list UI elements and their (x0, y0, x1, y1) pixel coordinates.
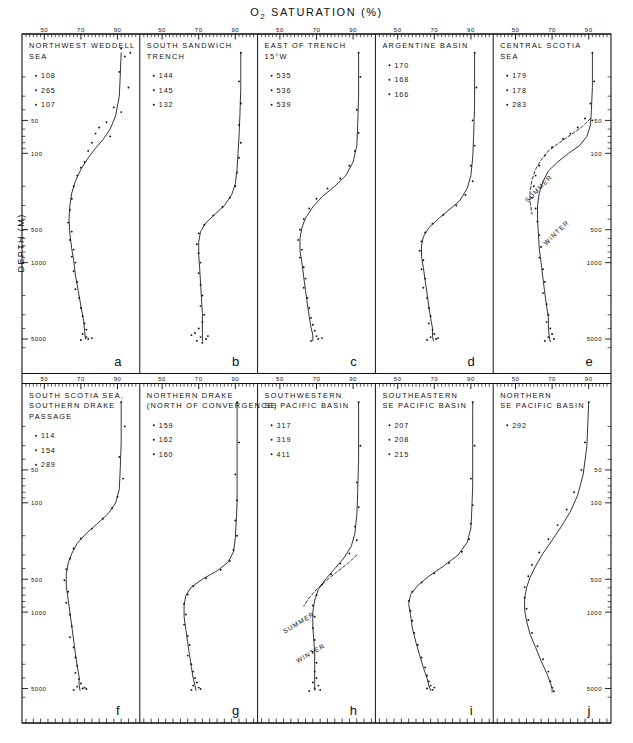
data-point (549, 328, 551, 330)
data-point (95, 133, 97, 135)
data-point (553, 690, 555, 692)
data-point (411, 591, 413, 593)
panel-letter: g (232, 703, 239, 718)
data-point (327, 188, 329, 190)
data-point (538, 234, 540, 236)
data-point (238, 157, 240, 159)
data-point (229, 560, 231, 562)
data-point (430, 685, 432, 687)
station-marker (388, 424, 390, 426)
data-point (470, 523, 472, 525)
data-point (200, 688, 202, 690)
data-point (566, 509, 568, 511)
data-point (190, 689, 192, 691)
panel-title-line: SOUTHWESTERN (265, 391, 343, 400)
x-tick-label: 70 (313, 376, 321, 382)
panel-title-line: ARGENTINE BASIN (382, 41, 468, 50)
data-point (358, 52, 360, 54)
data-point (421, 268, 423, 270)
data-point (310, 340, 312, 342)
depth-tick-label: 1000 (31, 260, 47, 266)
data-point (236, 535, 238, 537)
data-point (421, 657, 423, 659)
station-marker (35, 89, 37, 91)
panel-title-line: SOUTHERN DRAKE (29, 401, 116, 410)
data-point (80, 339, 82, 341)
depth-tick-label: 5000 (31, 686, 47, 692)
panel-title-line: SOUTHEASTERN (382, 391, 458, 400)
station-marker (388, 93, 390, 95)
data-point (233, 549, 235, 551)
station-marker (506, 75, 508, 77)
data-point (85, 336, 87, 338)
data-point (240, 52, 242, 54)
data-point (236, 172, 238, 174)
data-point (474, 145, 476, 147)
data-point (200, 336, 202, 338)
panel-title-line: TRENCH (147, 52, 185, 61)
station-marker (271, 89, 273, 91)
station-label: 107 (41, 100, 56, 109)
station-label: 160 (159, 450, 174, 459)
x-tick-label: 90 (585, 27, 593, 33)
depth-tick-label: 1000 (587, 610, 603, 616)
data-point (535, 208, 537, 210)
depth-tick-label: 500 (590, 577, 602, 583)
data-point (117, 496, 119, 498)
data-point (201, 321, 203, 323)
profile-curve (409, 402, 473, 690)
data-point (433, 572, 435, 574)
data-point (573, 491, 575, 493)
x-tick-label: 90 (231, 376, 239, 382)
data-point (310, 317, 312, 319)
data-point (339, 563, 341, 565)
data-point (455, 205, 457, 207)
data-point (524, 597, 526, 599)
data-point (348, 552, 350, 554)
data-point (432, 329, 434, 331)
station-label: 144 (159, 71, 174, 80)
data-point (317, 685, 319, 687)
depth-tick-label: 50 (594, 467, 602, 473)
data-point (551, 146, 553, 148)
data-point (190, 663, 192, 665)
x-tick-label: 70 (548, 27, 556, 33)
data-point (542, 292, 544, 294)
data-point (535, 175, 537, 177)
data-point (122, 478, 124, 480)
data-point (240, 142, 242, 144)
profile-curve (538, 53, 593, 342)
data-point (82, 333, 84, 335)
data-point (234, 185, 236, 187)
panel-title-line: NORTHERN DRAKE (147, 391, 234, 400)
data-point (198, 272, 200, 274)
depth-tick-label: 1000 (587, 260, 603, 266)
data-point (212, 214, 214, 216)
data-point (73, 270, 75, 272)
data-point (356, 109, 358, 111)
panel-letter: c (350, 354, 357, 369)
data-point (200, 305, 202, 307)
data-point (468, 538, 470, 540)
data-point (71, 256, 73, 258)
data-point (118, 456, 120, 458)
data-point (312, 605, 314, 607)
data-point (128, 87, 130, 89)
data-point (205, 338, 207, 340)
data-point (76, 175, 78, 177)
data-point (330, 573, 332, 575)
data-point (524, 586, 526, 588)
data-point (238, 124, 240, 126)
data-point (73, 689, 75, 691)
data-point (303, 266, 305, 268)
station-marker (153, 439, 155, 441)
x-tick-label: 70 (313, 27, 321, 33)
data-point (120, 401, 122, 403)
panel-letter: e (585, 354, 592, 369)
data-point (198, 328, 200, 330)
data-point (562, 138, 564, 140)
data-point (435, 338, 437, 340)
x-tick-label: 50 (158, 376, 166, 382)
data-point (198, 252, 200, 254)
data-point (205, 577, 207, 579)
